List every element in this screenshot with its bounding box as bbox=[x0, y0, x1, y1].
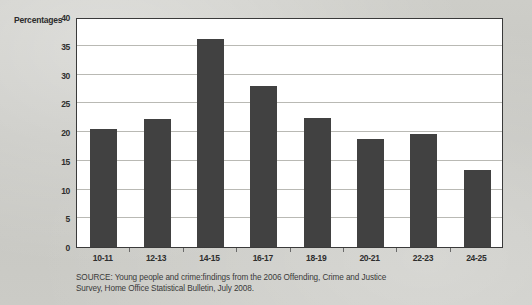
y-axis-tick-labels: 0510152025303540 bbox=[52, 18, 70, 248]
y-axis-tick-label: 5 bbox=[54, 214, 70, 224]
x-axis-tick-mark bbox=[396, 248, 397, 252]
x-axis-tick-label: 24-25 bbox=[466, 253, 486, 263]
x-axis-tick-label: 18-19 bbox=[306, 253, 326, 263]
y-axis-tick-label: 20 bbox=[54, 128, 70, 138]
x-axis-tick-mark bbox=[343, 248, 344, 252]
y-axis-tick-label: 15 bbox=[54, 157, 70, 167]
x-axis-tick-mark bbox=[290, 248, 291, 252]
source-note-line-2: Survey, Home Office Statistical Bulletin… bbox=[76, 283, 496, 294]
x-axis-tick-label: 22-23 bbox=[413, 253, 433, 263]
y-axis-tick-label: 10 bbox=[54, 186, 70, 196]
x-axis-tick-label: 16-17 bbox=[253, 253, 273, 263]
x-axis-tick-mark bbox=[450, 248, 451, 252]
y-axis-tick-label: 30 bbox=[54, 71, 70, 81]
x-axis-tick-label: 20-21 bbox=[359, 253, 379, 263]
chart-plot-area bbox=[76, 18, 503, 248]
x-axis-tick-label: 10-11 bbox=[93, 253, 113, 263]
x-axis-tick-label: 12-13 bbox=[146, 253, 166, 263]
bar bbox=[144, 119, 171, 247]
x-axis-tick-mark bbox=[183, 248, 184, 252]
bar bbox=[464, 170, 491, 247]
y-axis-tick-label: 0 bbox=[54, 243, 70, 253]
y-axis-tick-label: 35 bbox=[54, 42, 70, 52]
bar bbox=[304, 118, 331, 247]
x-axis-tick-label: 14-15 bbox=[199, 253, 219, 263]
source-note: SOURCE: Young people and crime:findings … bbox=[76, 272, 496, 294]
y-axis-tick-label: 25 bbox=[54, 99, 70, 109]
x-axis-tick-mark bbox=[129, 248, 130, 252]
x-axis-tick-mark bbox=[236, 248, 237, 252]
bar bbox=[410, 134, 437, 247]
bar bbox=[250, 86, 277, 247]
y-axis-tick-label: 40 bbox=[54, 13, 70, 23]
bar bbox=[90, 129, 117, 247]
x-axis-tick-labels: 10-1112-1314-1516-1718-1920-2122-2324-25 bbox=[76, 248, 503, 270]
bar-series bbox=[77, 19, 502, 247]
source-note-line-1: SOURCE: Young people and crime:findings … bbox=[76, 272, 496, 283]
bar bbox=[197, 39, 224, 247]
bar bbox=[357, 139, 384, 247]
